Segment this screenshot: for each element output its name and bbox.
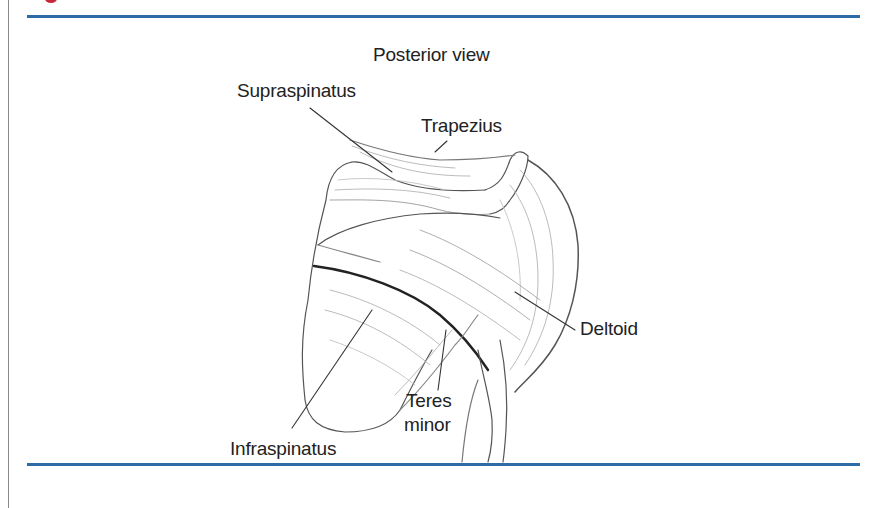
- label-infraspinatus: Infraspinatus: [230, 438, 336, 460]
- label-teres-minor-line1: Teres: [406, 390, 451, 412]
- label-teres-minor-line2: minor: [404, 414, 451, 436]
- figure-title: Posterior view: [373, 44, 490, 66]
- label-deltoid: Deltoid: [580, 318, 638, 340]
- label-supraspinatus: Supraspinatus: [237, 80, 356, 102]
- label-trapezius: Trapezius: [421, 115, 502, 137]
